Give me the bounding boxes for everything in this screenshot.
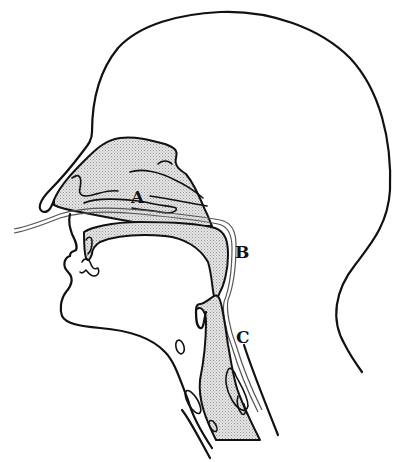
nasal-cavity xyxy=(54,137,212,226)
label-b: B xyxy=(235,242,249,262)
hyoid-bone xyxy=(174,339,185,355)
head-section-figure: A B C xyxy=(0,0,403,462)
pharynx-oropharynx xyxy=(84,222,228,298)
label-a: A xyxy=(130,187,145,207)
label-c: C xyxy=(236,327,250,347)
upper-lip xyxy=(69,214,76,256)
teeth-lower xyxy=(80,259,99,276)
anatomy-diagram: A B C xyxy=(0,0,403,462)
